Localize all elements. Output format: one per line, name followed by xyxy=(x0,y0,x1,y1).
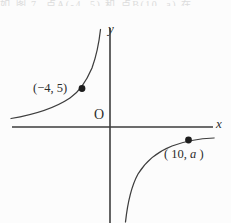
origin-label: O xyxy=(94,108,104,122)
coordinate-plane-svg xyxy=(0,0,231,223)
point-label-open: ( 10, xyxy=(164,147,190,161)
point-marker-lower-right xyxy=(185,137,192,144)
point-label-upper-left: (−4, 5) xyxy=(33,82,67,95)
x-axis-label: x xyxy=(216,117,222,130)
point-label-close: ) xyxy=(196,147,203,161)
point-marker-upper-left xyxy=(79,85,86,92)
point-label-lower-right: ( 10, a ) xyxy=(164,148,204,161)
hyperbola-figure: 如 图 7, 点A(-4, 5) 和 点B(10, a) 在 y x O (−4… xyxy=(0,0,231,223)
y-axis-label: y xyxy=(108,22,114,35)
hyperbola-branch-upper-left xyxy=(11,30,101,119)
